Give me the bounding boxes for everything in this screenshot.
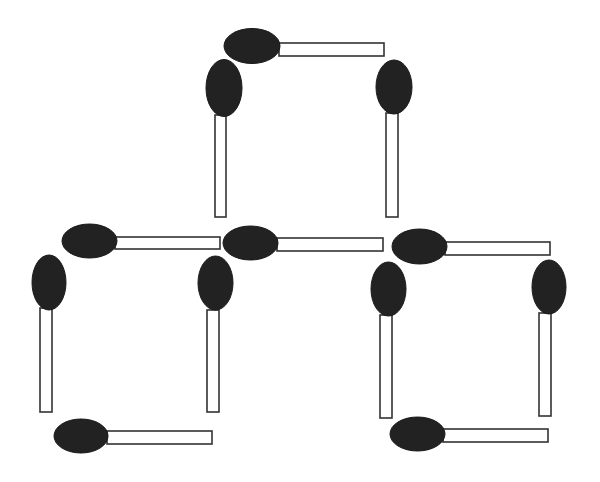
matchstick-left-square-right	[198, 256, 233, 412]
matchstick-top-square-left	[206, 60, 242, 218]
matches-layer	[32, 29, 566, 454]
matchstick-left-square-left	[32, 255, 66, 412]
matchstick-middle-shared-top	[223, 226, 383, 260]
match-head-icon	[532, 260, 566, 314]
matchstick-right-square-top	[392, 229, 550, 264]
matchstick-left-square-bottom	[54, 419, 212, 453]
match-head-icon	[376, 60, 412, 114]
match-stick-body	[40, 308, 52, 412]
match-head-icon	[392, 229, 447, 264]
match-stick-body	[539, 313, 551, 416]
match-head-icon	[223, 226, 278, 260]
match-head-icon	[390, 417, 445, 451]
matchstick-right-square-bottom	[390, 417, 548, 451]
match-stick-body	[443, 429, 548, 442]
match-head-icon	[198, 256, 233, 310]
match-stick-body	[445, 242, 550, 255]
matchstick-right-square-left	[371, 262, 406, 418]
matchstick-top-square-right	[376, 60, 412, 217]
match-stick-body	[386, 113, 398, 217]
match-head-icon	[62, 224, 117, 258]
match-stick-body	[380, 315, 392, 418]
match-stick-body	[279, 43, 384, 56]
match-head-icon	[32, 255, 66, 310]
match-stick-body	[107, 431, 212, 444]
matchstick-puzzle-diagram: Matchstick puzzle: three squares arrange…	[0, 0, 600, 482]
match-stick-body	[277, 238, 383, 251]
matchstick-left-square-top	[62, 224, 220, 258]
match-head-icon	[371, 262, 406, 316]
match-head-icon	[206, 60, 242, 117]
match-head-icon	[54, 419, 108, 453]
match-stick-body	[115, 237, 220, 249]
matchstick-top-square-top	[224, 29, 384, 64]
match-head-icon	[224, 29, 280, 64]
match-stick-body	[215, 115, 226, 217]
match-stick-body	[207, 310, 219, 412]
matchstick-right-square-right	[532, 260, 566, 416]
